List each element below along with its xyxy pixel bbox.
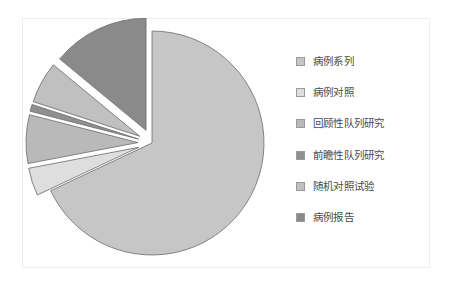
pie-chart-svg: 病例系列病例对照回顾性队列研究前瞻性队列研究随机对照试验病例报告 [20, 18, 290, 273]
legend-label-rct: 随机对照试验 [313, 180, 374, 193]
legend-label-case-report: 病例报告 [313, 211, 354, 224]
legend-item-case-control[interactable]: 病例对照 [296, 79, 436, 105]
legend-label-retrospective-cohort: 回顾性队列研究 [313, 117, 384, 130]
pie-chart-card: 病例系列病例对照回顾性队列研究前瞻性队列研究随机对照试验病例报告 病例系列 病例… [0, 0, 451, 291]
legend-swatch-prospective-cohort [296, 151, 305, 160]
chart-legend: 病例系列 病例对照 回顾性队列研究 前瞻性队列研究 随机对照试验 病例报告 [296, 48, 436, 236]
legend-swatch-case-series [296, 57, 305, 66]
legend-swatch-case-control [296, 88, 305, 97]
legend-item-case-report[interactable]: 病例报告 [296, 205, 436, 231]
legend-label-case-control: 病例对照 [313, 86, 354, 99]
legend-label-case-series: 病例系列 [313, 55, 354, 68]
legend-item-prospective-cohort[interactable]: 前瞻性队列研究 [296, 142, 436, 168]
legend-item-retrospective-cohort[interactable]: 回顾性队列研究 [296, 111, 436, 137]
legend-item-rct[interactable]: 随机对照试验 [296, 174, 436, 200]
legend-swatch-rct [296, 182, 305, 191]
legend-swatch-retrospective-cohort [296, 119, 305, 128]
legend-swatch-case-report [296, 213, 305, 222]
legend-label-prospective-cohort: 前瞻性队列研究 [313, 149, 384, 162]
legend-item-case-series[interactable]: 病例系列 [296, 48, 436, 74]
pie-chart-plot-area: 病例系列病例对照回顾性队列研究前瞻性队列研究随机对照试验病例报告 [20, 18, 290, 273]
pie-slice-group: 病例系列病例对照回顾性队列研究前瞻性队列研究随机对照试验病例报告 [26, 18, 264, 255]
